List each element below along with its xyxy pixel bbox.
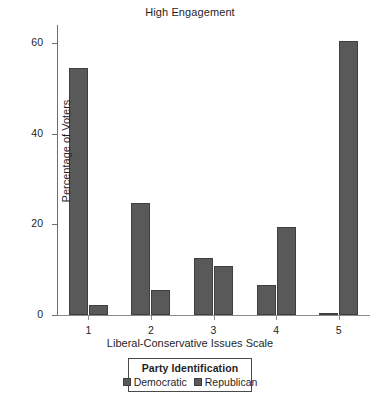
legend-entries: DemocraticRepublican xyxy=(133,376,247,388)
x-axis-tick xyxy=(88,315,89,320)
x-axis-tick xyxy=(276,315,277,320)
y-axis-tick-label: 20 xyxy=(31,217,43,229)
y-axis-tick-label: 40 xyxy=(31,127,43,139)
legend-swatch-democratic xyxy=(123,378,131,386)
bottom-caption xyxy=(4,400,204,407)
x-axis-tick-label: 3 xyxy=(194,324,234,336)
x-axis-tick xyxy=(339,315,340,320)
bar-republican-3 xyxy=(214,266,233,315)
legend-entry-label: Democratic xyxy=(134,376,187,388)
bar-democratic-4 xyxy=(257,285,276,315)
legend-entry-democratic[interactable]: Democratic xyxy=(123,376,187,388)
bar-democratic-5 xyxy=(319,313,338,315)
x-axis-tick-label: 4 xyxy=(256,324,296,336)
legend-entry-republican[interactable]: Republican xyxy=(194,376,258,388)
x-axis-tick xyxy=(151,315,152,320)
x-axis-tick-label: 5 xyxy=(319,324,359,336)
chart-title: High Engagement xyxy=(0,6,380,18)
bar-republican-2 xyxy=(151,290,170,315)
bar-republican-4 xyxy=(277,227,296,315)
bar-democratic-2 xyxy=(131,203,150,315)
y-axis-title: Percentage of Voters xyxy=(60,56,72,246)
x-axis-tick xyxy=(214,315,215,320)
bar-republican-1 xyxy=(89,305,108,315)
legend-swatch-republican xyxy=(194,378,202,386)
bar-democratic-3 xyxy=(194,258,213,315)
y-axis-tick-label: 0 xyxy=(37,308,43,320)
y-axis-tick-label: 60 xyxy=(31,36,43,48)
x-axis-tick-label: 2 xyxy=(131,324,171,336)
legend-entry-label: Republican xyxy=(205,376,258,388)
legend-title: Party Identification xyxy=(133,362,247,374)
bar-republican-5 xyxy=(339,41,358,315)
x-axis-title: Liberal-Conservative Issues Scale xyxy=(0,337,380,349)
plot-area: 0204060 12345 Percentage of Voters xyxy=(57,25,370,315)
y-axis-tick: 0 xyxy=(52,315,57,316)
legend: Party Identification DemocraticRepublica… xyxy=(128,358,252,392)
x-axis-tick-label: 1 xyxy=(68,324,108,336)
bars-layer xyxy=(57,25,370,315)
